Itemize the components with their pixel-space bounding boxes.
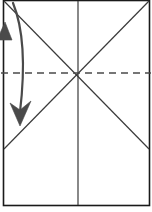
origami-diagram	[0, 0, 152, 212]
diagram-canvas	[0, 0, 152, 212]
paper-sheet-outline	[4, 1, 150, 206]
